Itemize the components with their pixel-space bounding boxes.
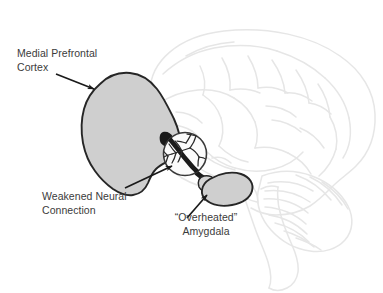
label-weakened-line2: Connection (42, 204, 127, 218)
label-overheated-amygdala: “Overheated” Amygdala (160, 211, 252, 238)
label-mpfc-line2: Cortex (17, 61, 97, 75)
label-medial-prefrontal-cortex: Medial Prefrontal Cortex (17, 47, 97, 74)
label-amygdala-line1: “Overheated” (160, 211, 252, 225)
label-weakened-neural-connection: Weakened Neural Connection (42, 190, 127, 217)
brain-diagram-figure: Medial Prefrontal Cortex Weakened Neural… (0, 0, 383, 293)
label-weakened-line1: Weakened Neural (42, 190, 127, 204)
label-mpfc-line1: Medial Prefrontal (17, 47, 97, 61)
arrow-to-mpfc (56, 74, 94, 89)
brain-diagram-svg (0, 0, 383, 293)
label-amygdala-line2: Amygdala (160, 225, 252, 239)
